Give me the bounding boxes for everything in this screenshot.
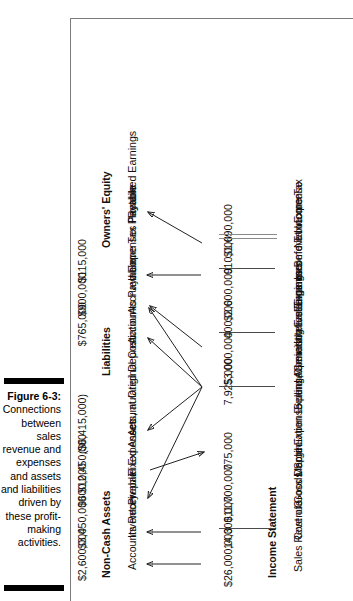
section-heading-liabilities: Liabilities: [100, 327, 112, 376]
section-heading-non-cash-assets: Non-Cash Assets: [100, 491, 112, 578]
caption-text: Figure 6-3: Connections between sales re…: [0, 390, 66, 550]
caption-rule-bottom: [4, 585, 64, 591]
is-value-net-income: $1,690,000: [222, 204, 234, 276]
connector-arrows: [70, 18, 352, 600]
income-statement-heading: Income Statement: [266, 487, 278, 578]
figure-number: Figure 6-3:: [7, 390, 61, 402]
bs-value-accumulated-depreciation: ($6,415,000): [76, 394, 88, 466]
bs-value-income-tax-payable: $115,000: [76, 239, 88, 311]
is-label-net-income: Net Income: [292, 194, 304, 248]
bs-label-retained-earnings: Retained Earnings: [126, 131, 138, 218]
is-value-depreciation-expense: 775,000: [222, 432, 234, 504]
caption-body: Connections between sales revenue and ex…: [1, 403, 61, 548]
section-heading-owners-equity: Owners' Equity: [100, 171, 112, 248]
figure-caption-block: Figure 6-3: Connections between sales re…: [0, 378, 66, 550]
diagram-stage: Non-Cash Assets Accounts Receivable $2,6…: [70, 18, 352, 600]
rule-double-net-income: [219, 234, 277, 239]
caption-rule-top: [4, 378, 64, 384]
